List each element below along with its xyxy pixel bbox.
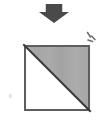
fold-diagram [0, 0, 110, 120]
diagram-canvas: Fold Step Diagram Fold downward Square s… [0, 0, 110, 120]
dot-icon [9, 94, 12, 98]
